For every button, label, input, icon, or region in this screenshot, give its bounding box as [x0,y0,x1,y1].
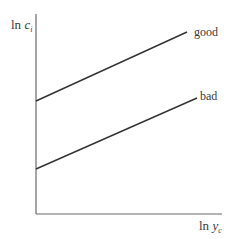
y-axis-label-base: ln [11,17,24,32]
diagram: good bad ln ci ln yc [0,0,235,239]
x-axis-label: ln yc [199,218,222,235]
bad-line [36,98,197,169]
y-axis-label: ln ci [11,17,32,34]
x-axis-label-base: ln [199,218,212,233]
good-label: good [194,25,218,39]
x-axis-label-sub: c [218,226,222,235]
diagram-svg: good bad ln ci ln yc [0,0,235,239]
bad-label: bad [200,89,217,103]
good-line [36,32,187,101]
y-axis-label-sub: i [30,25,32,34]
